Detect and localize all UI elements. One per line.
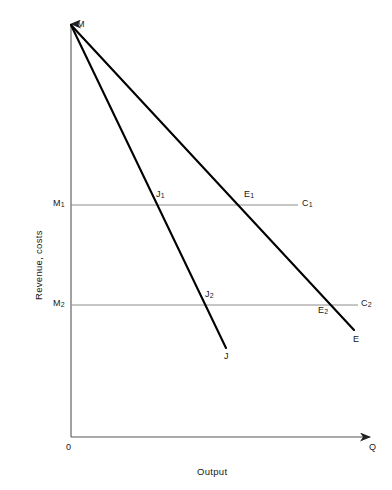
label-c2: C2 xyxy=(361,299,372,308)
label-m1: M1 xyxy=(53,199,65,208)
chart-canvas xyxy=(0,0,392,490)
label-j1: J1 xyxy=(156,190,165,199)
label-e: E xyxy=(353,335,359,344)
x-axis-title: Output xyxy=(197,466,227,477)
economics-revenue-cost-diagram: M M1 M2 J1 E1 J2 E2 C1 C2 J E 0 Q Revenu… xyxy=(0,0,392,490)
label-e1: E1 xyxy=(244,190,254,199)
label-m2: M2 xyxy=(53,299,65,308)
label-q-axis-symbol: Q xyxy=(369,443,376,452)
revenue-line-me xyxy=(71,25,354,330)
label-e2: E2 xyxy=(318,306,328,315)
label-m: M xyxy=(77,20,85,29)
label-c1: C1 xyxy=(302,199,313,208)
label-j2: J2 xyxy=(205,290,214,299)
revenue-line-mj xyxy=(71,25,226,348)
y-axis-title: Revenue, costs xyxy=(33,230,44,300)
label-j: J xyxy=(224,352,229,361)
label-origin: 0 xyxy=(66,443,71,452)
